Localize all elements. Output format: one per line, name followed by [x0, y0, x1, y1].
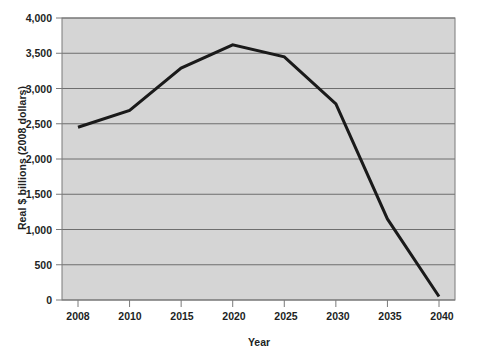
plot-area [0, 0, 483, 354]
y-tick-marks-group [56, 18, 62, 300]
x-tick-marks-group [78, 300, 439, 307]
chart-figure: Real $ billions (2008 dollars) 4,000 3,5… [0, 0, 483, 354]
